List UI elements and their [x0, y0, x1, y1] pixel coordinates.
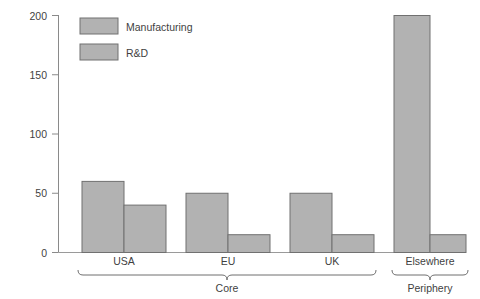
bar-rnd-elsewhere: [430, 235, 466, 253]
legend-swatch-rnd: [80, 44, 118, 60]
y-tick-label-150: 150: [29, 69, 47, 81]
bar-manufacturing-uk: [290, 193, 332, 252]
bar-rnd-uk: [332, 235, 374, 253]
y-tick-label-100: 100: [29, 128, 47, 140]
legend-swatch-manufacturing: [80, 18, 118, 34]
bar-rnd-eu: [228, 235, 270, 253]
legend-label-manufacturing: Manufacturing: [126, 21, 193, 33]
bar-chart: 200 150 100 50 0: [0, 0, 480, 299]
bar-manufacturing-elsewhere: [394, 16, 430, 253]
bracket-core-label: Core: [216, 282, 239, 294]
category-label-uk: UK: [325, 255, 340, 267]
category-label-usa: USA: [113, 255, 135, 267]
bar-manufacturing-usa: [82, 181, 124, 252]
bracket-periphery-label: Periphery: [408, 282, 454, 294]
category-label-elsewhere: Elsewhere: [405, 255, 454, 267]
y-tick-label-0: 0: [41, 247, 47, 259]
chart-canvas: 200 150 100 50 0: [0, 0, 480, 299]
y-tick-label-50: 50: [35, 187, 47, 199]
y-tick-label-200: 200: [29, 10, 47, 22]
bar-rnd-usa: [124, 205, 166, 252]
category-label-eu: EU: [221, 255, 236, 267]
legend-item-rnd: R&D: [80, 44, 149, 60]
bar-manufacturing-eu: [186, 193, 228, 252]
legend-label-rnd: R&D: [126, 47, 149, 59]
legend-item-manufacturing: Manufacturing: [80, 18, 193, 34]
